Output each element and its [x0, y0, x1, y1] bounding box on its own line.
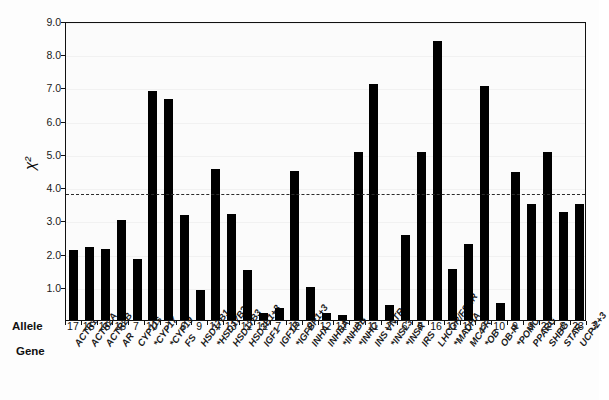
- bar-*INSR: [401, 235, 410, 320]
- bar-PPARG: [527, 204, 536, 320]
- bar-STAR: [559, 212, 568, 320]
- gridline: [66, 189, 585, 190]
- y-axis-tick-6.0: 6.0: [31, 116, 61, 128]
- bar-ACTR1: [69, 250, 78, 320]
- bar-HSD3B1+3: [243, 270, 252, 320]
- y-axis-tick-4.0: 4.0: [31, 182, 61, 194]
- bar-FS: [180, 215, 189, 320]
- bar-HSD17B1: [196, 290, 205, 320]
- gridline: [66, 89, 585, 90]
- y-axis-tick-2.0: 2.0: [31, 249, 61, 261]
- bar-IRS: [417, 152, 426, 320]
- y-axis-tick-1.0: 1.0: [31, 282, 61, 294]
- bar-HSD17B3: [227, 214, 236, 320]
- bar-ACTR2B: [101, 249, 110, 320]
- y-axis-tick-7.0: 7.0: [31, 82, 61, 94]
- bar-ACTR2A: [85, 247, 94, 320]
- bar-IGF1: [259, 313, 268, 320]
- y-axis-tick-9.0: 9.0: [31, 16, 61, 28]
- bar-LHCGR/FSHR: [433, 41, 442, 320]
- gene-row-header: Gene: [16, 345, 45, 357]
- gridline: [66, 256, 585, 257]
- bar-*INSL3: [385, 305, 394, 320]
- bar-*INHC: [354, 152, 363, 320]
- bar-MC4-R: [464, 244, 473, 320]
- y-axis-tick-5.0: 5.0: [31, 149, 61, 161]
- gridline: [66, 222, 585, 223]
- bar-*OB: [480, 86, 489, 320]
- bar-SHBG: [543, 152, 552, 320]
- significance-threshold-line: [66, 194, 585, 195]
- allele-row-header: Allele: [12, 320, 43, 332]
- gridline: [66, 56, 585, 57]
- bar-*INHBB: [338, 315, 347, 320]
- y-axis-tick-8.0: 8.0: [31, 49, 61, 61]
- plot-area: [65, 22, 586, 321]
- bar-OB-R: [496, 303, 505, 320]
- bar-*IGFBP1+3: [290, 171, 299, 321]
- bar-INHA: [306, 287, 315, 320]
- gridline: [66, 156, 585, 157]
- gridline: [66, 23, 585, 24]
- bar-*CYP17: [148, 91, 157, 320]
- bar-*MADHA: [448, 269, 457, 320]
- gridline: [66, 123, 585, 124]
- y-axis-tick-3.0: 3.0: [31, 215, 61, 227]
- bar-IGF1R: [275, 308, 284, 320]
- bar-INS VNTR: [369, 84, 378, 320]
- bar-*HSD17B2: [211, 169, 220, 320]
- bar-UCP-2+3: [575, 204, 584, 320]
- gridline: [66, 289, 585, 290]
- bar-INHBA: [322, 313, 331, 320]
- bar-*CYP19: [164, 99, 173, 320]
- bar-CYP11s: [133, 259, 142, 320]
- bar-AR: [117, 220, 126, 320]
